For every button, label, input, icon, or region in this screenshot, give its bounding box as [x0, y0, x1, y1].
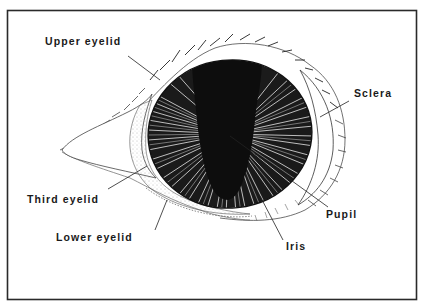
- label-upper-eyelid: Upper eyelid: [45, 36, 121, 47]
- leader-upper-eyelid: [128, 56, 160, 80]
- leader-lower-eyelid: [155, 200, 167, 230]
- label-sclera: Sclera: [354, 88, 392, 99]
- label-third-eyelid: Third eyelid: [27, 194, 99, 205]
- label-lower-eyelid: Lower eyelid: [56, 232, 133, 243]
- label-iris: Iris: [286, 241, 306, 252]
- label-pupil: Pupil: [326, 209, 357, 220]
- eye-anatomy-diagram: Upper eyelid Sclera Third eyelid Lower e…: [0, 0, 425, 306]
